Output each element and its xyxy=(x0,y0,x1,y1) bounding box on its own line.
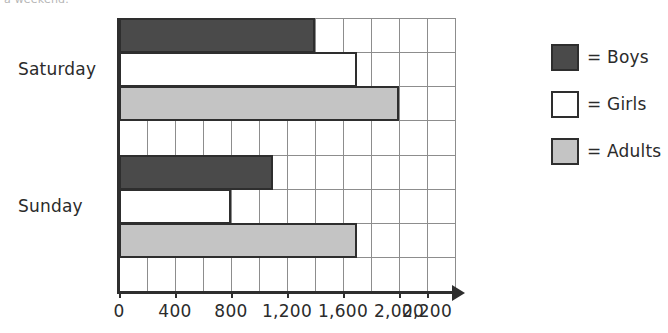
x-tick xyxy=(427,291,429,298)
plot-area xyxy=(119,18,455,291)
x-tick xyxy=(287,291,289,298)
x-tick-label: 1,600 xyxy=(318,301,368,321)
x-tick-label: 800 xyxy=(214,301,247,321)
bar-chart-figure: a weekend. 04008001,2001,6002,0002,200 S… xyxy=(0,0,668,333)
legend-label-boys: = Boys xyxy=(587,47,649,67)
legend-item-adults: = Adults xyxy=(551,132,661,170)
category-label-saturday: Saturday xyxy=(18,59,96,79)
partial-caption: a weekend. xyxy=(4,0,69,6)
x-tick xyxy=(175,291,177,298)
bar-sunday-girls xyxy=(119,189,231,224)
x-tick-label: 0 xyxy=(113,301,124,321)
legend-swatch-adults xyxy=(551,138,579,165)
legend-label-girls: = Girls xyxy=(587,94,647,114)
x-tick xyxy=(343,291,345,298)
legend-item-boys: = Boys xyxy=(551,38,661,76)
x-tick-label: 1,200 xyxy=(262,301,312,321)
bar-saturday-boys xyxy=(119,18,315,53)
bar-sunday-boys xyxy=(119,155,273,190)
legend: = Boys = Girls = Adults xyxy=(551,38,661,179)
x-tick-label: 2,200 xyxy=(402,301,452,321)
bar-sunday-adults xyxy=(119,223,357,258)
legend-item-girls: = Girls xyxy=(551,85,661,123)
x-tick xyxy=(231,291,233,298)
legend-label-adults: = Adults xyxy=(587,141,661,161)
x-tick xyxy=(119,291,121,298)
x-tick xyxy=(399,291,401,298)
bar-saturday-girls xyxy=(119,52,357,87)
legend-swatch-boys xyxy=(551,44,579,71)
x-axis-arrow-icon xyxy=(452,285,465,301)
bar-saturday-adults xyxy=(119,86,399,121)
gridline-vertical xyxy=(455,18,456,291)
x-tick-label: 400 xyxy=(158,301,191,321)
legend-swatch-girls xyxy=(551,91,579,118)
category-label-sunday: Sunday xyxy=(18,196,83,216)
